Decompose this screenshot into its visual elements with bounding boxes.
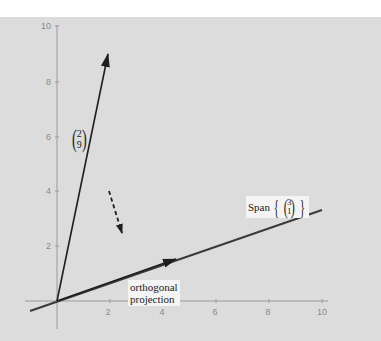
- vector-components: 2 9: [77, 128, 82, 150]
- y-tick-10: 10: [41, 21, 51, 31]
- projection-label-line1: orthogonal: [130, 281, 178, 293]
- right-paren: ): [82, 126, 87, 152]
- x-tick-2: 2: [105, 307, 110, 317]
- left-paren: (: [72, 126, 77, 152]
- y-tick-8: 8: [46, 77, 51, 87]
- projection-diagram: 2 4 6 8 10 2 4 6 8 10: [0, 0, 381, 341]
- span-label: Span { ( 3 1 ) }: [246, 196, 309, 218]
- x-tick-10: 10: [317, 307, 327, 317]
- left-paren: (: [283, 196, 287, 218]
- x-tick-6: 6: [212, 307, 217, 317]
- right-paren: ): [291, 196, 295, 218]
- left-brace: {: [274, 196, 279, 218]
- y-tick-4: 4: [46, 186, 51, 196]
- vector-component-x: 2: [77, 128, 82, 139]
- dashed-projection-direction-arrow: [109, 191, 122, 233]
- vector-label: ( 2 9 ): [70, 126, 88, 152]
- vector-component-y: 9: [77, 139, 82, 150]
- x-tick-4: 4: [159, 307, 164, 317]
- y-tick-6: 6: [46, 132, 51, 142]
- figure-page: 2 4 6 8 10 2 4 6 8 10 ( 2 9 ) Span: [0, 0, 381, 341]
- vector-2-9-arrow: [57, 54, 108, 301]
- x-tick-8: 8: [265, 307, 270, 317]
- span-word: Span: [248, 202, 270, 213]
- y-tick-2: 2: [46, 241, 51, 251]
- orthogonal-projection-label: orthogonal projection: [128, 280, 180, 306]
- projection-label-line2: projection: [130, 293, 178, 305]
- right-brace: }: [299, 196, 304, 218]
